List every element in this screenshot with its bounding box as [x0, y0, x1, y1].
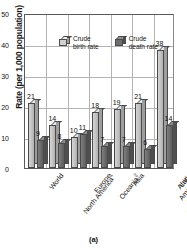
bar-value-label: 21	[27, 93, 35, 100]
bar-value-label: 14	[165, 115, 173, 122]
bar-value-label: 14	[48, 115, 56, 122]
chart-legend: Crude birth rate Crude death rate	[59, 35, 158, 50]
cube-dark-icon	[115, 37, 126, 46]
legend-label-birth: Crude birth rate	[73, 35, 99, 50]
bar-value-label: 19	[113, 99, 121, 106]
bar-death-4: 7	[123, 146, 130, 168]
y-tick-20: 20	[0, 104, 9, 111]
bar-value-label: 18	[91, 102, 99, 109]
y-tick-30: 30	[0, 73, 9, 80]
legend-label-death: Crude death rate	[129, 35, 158, 50]
y-axis-title: Rate (per 1,000 population)	[14, 0, 24, 122]
bar-value-label: 8	[57, 133, 61, 140]
bar-value-label: 7	[122, 136, 126, 143]
bar-value-label: 11	[79, 124, 86, 131]
y-tick-10: 10	[0, 135, 9, 142]
bar-death-3: 7	[101, 146, 108, 168]
bar-death-2: 11	[80, 134, 87, 168]
bar-death-0: 9	[37, 140, 44, 168]
cube-light-icon	[59, 37, 70, 46]
bar-birth-1: 14	[49, 125, 56, 168]
bar-birth-2: 10	[71, 137, 78, 168]
legend-item-birth: Crude birth rate	[59, 35, 99, 50]
bar-birth-0: 21	[28, 103, 35, 168]
bar-value-label: 9	[36, 130, 40, 137]
bar-value-label: 7	[100, 136, 104, 143]
bar-birth-6: 38	[157, 50, 164, 168]
chart-figure: Rate (per 1,000 population) 01020304050 …	[0, 0, 187, 248]
y-tick-0: 0	[0, 166, 9, 173]
x-label-0: World	[48, 172, 65, 191]
legend-item-death: Crude death rate	[115, 35, 158, 50]
bar-death-1: 8	[58, 143, 65, 168]
figure-caption: (a)	[0, 235, 187, 244]
bar-death-6: 14	[166, 125, 173, 168]
bar-value-label: 21	[134, 93, 142, 100]
bar-value-label: 10	[70, 127, 78, 134]
plot-area: 21914810111871972163814 Crude birth rate…	[24, 14, 174, 169]
y-tick-40: 40	[0, 42, 9, 49]
bar-value-label: 6	[143, 139, 147, 146]
bar-death-5: 6	[144, 149, 151, 168]
y-tick-50: 50	[0, 11, 9, 18]
bar-birth-3: 18	[92, 112, 99, 168]
bar-birth-5: 21	[135, 103, 142, 168]
bar-birth-4: 19	[114, 109, 121, 168]
